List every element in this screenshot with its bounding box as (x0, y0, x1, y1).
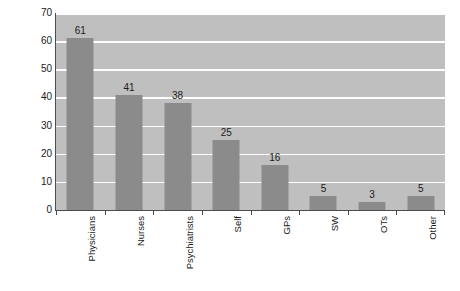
bar-slot: 25 (202, 13, 251, 210)
x-axis-category-label: Other (427, 216, 439, 288)
y-axis-line (55, 13, 56, 211)
y-axis-tick-labels: 010203040506070 (26, 10, 52, 210)
x-axis-category-label: Physicians (86, 216, 98, 288)
x-axis-category-label: Psychiatrists (184, 216, 196, 288)
bar-value-label: 16 (269, 152, 280, 163)
x-axis-category-label: Nurses (135, 216, 147, 288)
bar[interactable] (67, 38, 94, 210)
x-axis-category-label: GPs (281, 216, 293, 288)
x-axis-tick (396, 211, 397, 215)
bar-value-label: 38 (172, 90, 183, 101)
y-axis-tick-label: 50 (26, 64, 52, 74)
x-axis-tick (56, 211, 57, 215)
y-axis-tick-label: 70 (26, 8, 52, 18)
x-axis-tick (444, 211, 445, 215)
x-axis-tick (202, 211, 203, 215)
x-axis-tick (348, 211, 349, 215)
x-axis-tick (299, 211, 300, 215)
bar-value-label: 41 (123, 82, 134, 93)
bar-value-label: 3 (369, 189, 375, 200)
bar[interactable] (359, 202, 386, 210)
y-axis-tick-label: 60 (26, 36, 52, 46)
bar[interactable] (261, 165, 288, 210)
y-axis-tick-label: 30 (26, 121, 52, 131)
bar-slot: 5 (299, 13, 348, 210)
bar-value-label: 61 (75, 25, 86, 36)
bar-slot: 5 (396, 13, 445, 210)
bar[interactable] (164, 103, 191, 210)
bar-chart-figure: Number of respondents 010203040506070 61… (0, 0, 460, 291)
bar-slot: 41 (105, 13, 154, 210)
bar[interactable] (310, 196, 337, 210)
bar-value-label: 5 (321, 183, 327, 194)
bar-slot: 38 (153, 13, 202, 210)
x-axis-tick (105, 211, 106, 215)
x-axis-tick (251, 211, 252, 215)
bar[interactable] (115, 95, 142, 210)
x-axis-category-label: OTs (378, 216, 390, 288)
y-axis-tick-label: 10 (26, 177, 52, 187)
y-axis-tick-label: 40 (26, 92, 52, 102)
x-axis-category-label: Self (232, 216, 244, 288)
bar-value-label: 5 (418, 183, 424, 194)
bar[interactable] (407, 196, 434, 210)
plot-area: 6141382516535 (56, 13, 445, 210)
bar-slot: 3 (348, 13, 397, 210)
y-axis-tick-label: 0 (26, 205, 52, 215)
x-axis-tick (153, 211, 154, 215)
bar-slot: 16 (251, 13, 300, 210)
bar[interactable] (213, 140, 240, 210)
bar-value-label: 25 (221, 127, 232, 138)
y-axis-tick-label: 20 (26, 149, 52, 159)
bars-group: 6141382516535 (56, 13, 445, 210)
bar-slot: 61 (56, 13, 105, 210)
x-axis-category-labels: PhysiciansNursesPsychiatristsSelfGPsSWOT… (56, 216, 445, 288)
x-axis-category-label: SW (329, 216, 341, 288)
